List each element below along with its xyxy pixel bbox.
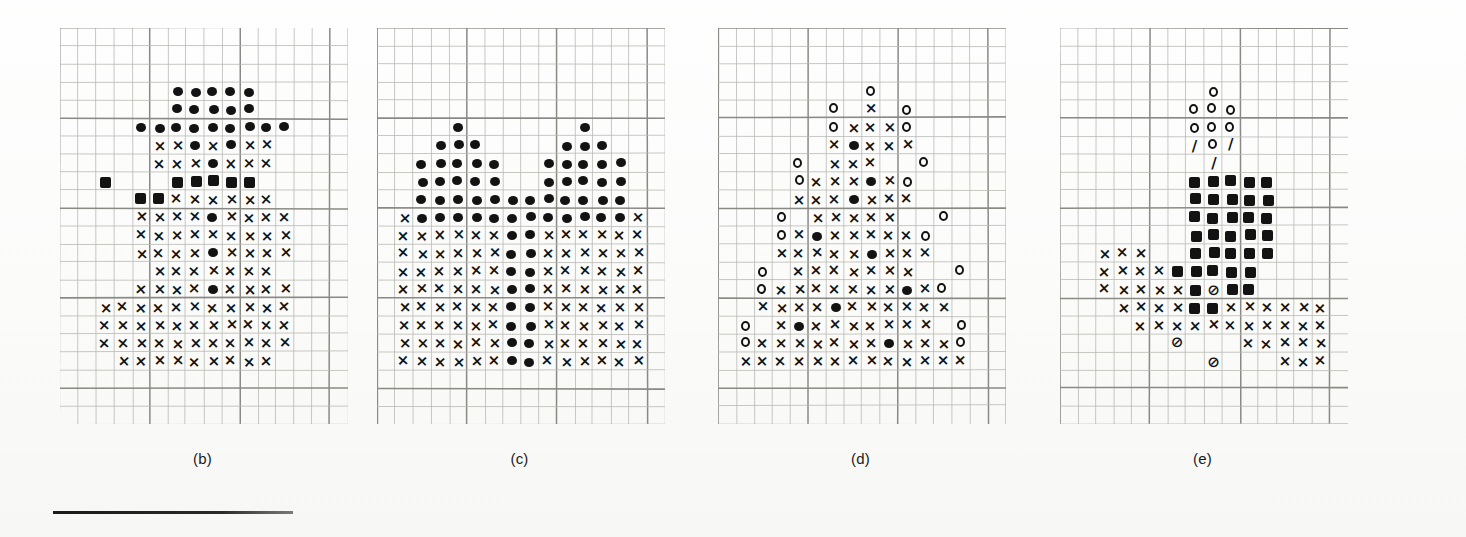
filled-square-icon	[1259, 191, 1277, 209]
x-mark-icon: ×	[395, 208, 414, 227]
x-mark-icon: ×	[257, 189, 276, 208]
filled-dot-icon	[503, 280, 521, 298]
x-mark-icon: ×	[256, 315, 275, 334]
x-mark-icon: ×	[628, 225, 646, 243]
x-mark-icon: ×	[1131, 297, 1150, 316]
x-mark-icon: ×	[185, 352, 203, 370]
x-mark-icon: ×	[1311, 298, 1329, 316]
x-mark-icon: ×	[430, 278, 449, 297]
filled-dot-icon	[862, 172, 880, 190]
x-mark-icon: ×	[430, 245, 448, 263]
filled-dot-icon	[221, 119, 239, 137]
x-mark-icon: ×	[951, 350, 970, 369]
x-mark-icon: ×	[486, 333, 504, 351]
x-mark-icon: ×	[394, 262, 413, 281]
x-mark-icon: ×	[575, 261, 594, 280]
filled-square-icon	[1257, 173, 1275, 191]
x-mark-icon: ×	[878, 226, 897, 245]
filled-dot-icon	[449, 118, 467, 136]
filled-square-icon	[1240, 173, 1258, 191]
x-mark-icon: ×	[169, 136, 187, 154]
x-mark-icon: ×	[539, 297, 557, 315]
x-mark-icon: ×	[592, 298, 611, 317]
x-mark-icon: ×	[186, 244, 205, 263]
x-mark-icon: ×	[807, 279, 826, 298]
x-mark-icon: ×	[133, 334, 152, 353]
x-mark-icon: ×	[576, 243, 594, 261]
x-mark-icon: ×	[1257, 297, 1276, 316]
x-mark-icon: ×	[1132, 244, 1151, 263]
slash-icon: ∕	[1185, 137, 1203, 155]
x-mark-icon: ×	[773, 299, 791, 317]
x-mark-icon: ×	[556, 334, 574, 352]
filled-dot-icon	[132, 118, 150, 136]
x-mark-icon: ×	[257, 351, 276, 370]
x-mark-icon: ×	[467, 280, 485, 298]
filled-dot-icon	[204, 118, 222, 136]
filled-dot-icon	[521, 279, 539, 297]
filled-dot-icon	[880, 334, 898, 352]
filled-dot-icon	[612, 172, 630, 190]
filled-square-icon	[1221, 227, 1239, 245]
slashed-circle-icon: ⊘	[1205, 281, 1223, 299]
x-mark-icon: ×	[1293, 332, 1312, 351]
filled-dot-icon	[520, 334, 538, 352]
filled-square-icon	[1204, 225, 1222, 243]
x-mark-icon: ×	[1130, 261, 1149, 280]
x-mark-icon: ×	[556, 225, 575, 244]
filled-dot-icon	[203, 82, 221, 100]
x-mark-icon: ×	[431, 226, 449, 244]
filled-square-icon	[204, 171, 222, 189]
open-circle-icon	[825, 99, 843, 117]
x-mark-icon: ×	[807, 191, 826, 210]
x-mark-icon: ×	[628, 260, 647, 279]
x-mark-icon: ×	[896, 189, 915, 208]
x-mark-icon: ×	[150, 154, 169, 173]
filled-dot-icon	[503, 333, 521, 351]
x-mark-icon: ×	[238, 315, 257, 334]
x-mark-icon: ×	[240, 135, 259, 154]
x-mark-icon: ×	[203, 191, 222, 210]
x-mark-icon: ×	[485, 261, 504, 280]
filled-square-icon	[1185, 207, 1203, 225]
filled-dot-icon	[486, 190, 504, 208]
x-mark-icon: ×	[167, 316, 186, 335]
x-mark-icon: ×	[167, 298, 185, 316]
x-mark-icon: ×	[222, 155, 240, 173]
filled-dot-icon	[186, 136, 204, 154]
open-circle-icon	[1185, 100, 1203, 118]
x-mark-icon: ×	[772, 334, 790, 352]
open-circle-icon	[953, 316, 971, 334]
x-mark-icon: ×	[167, 245, 185, 263]
x-mark-icon: ×	[222, 189, 241, 208]
x-mark-icon: ×	[277, 279, 295, 297]
x-mark-icon: ×	[791, 334, 809, 352]
open-circle-icon	[952, 333, 970, 351]
x-mark-icon: ×	[574, 225, 593, 244]
x-mark-icon: ×	[934, 298, 953, 317]
filled-square-icon	[1241, 263, 1259, 281]
x-mark-icon: ×	[916, 351, 935, 370]
x-mark-icon: ×	[412, 351, 431, 370]
x-mark-icon: ×	[168, 280, 187, 299]
filled-square-icon	[1222, 263, 1240, 281]
x-mark-icon: ×	[150, 226, 169, 245]
filled-square-icon	[1205, 243, 1223, 261]
filled-square-icon	[1258, 244, 1276, 262]
symbol-layer: ××××××××××××××××××××××××××××××××××××××××…	[60, 28, 345, 428]
x-mark-icon: ×	[754, 297, 772, 315]
filled-square-icon	[1186, 244, 1204, 262]
x-mark-icon: ×	[95, 333, 114, 352]
x-mark-icon: ×	[862, 261, 881, 280]
x-mark-icon: ×	[1185, 316, 1204, 335]
filled-dot-icon	[485, 209, 503, 227]
x-mark-icon: ×	[555, 261, 574, 280]
panel-caption-d: (d)	[718, 450, 1003, 467]
filled-square-icon	[1240, 244, 1258, 262]
x-mark-icon: ×	[447, 297, 466, 316]
filled-dot-icon	[204, 280, 222, 298]
x-mark-icon: ×	[557, 279, 576, 298]
filled-dot-icon	[431, 172, 449, 190]
x-mark-icon: ×	[414, 334, 432, 352]
x-mark-icon: ×	[1276, 298, 1294, 316]
